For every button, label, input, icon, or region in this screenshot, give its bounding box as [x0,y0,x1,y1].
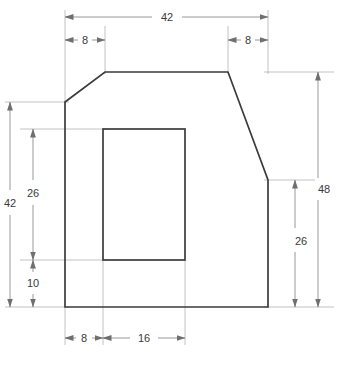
dim-label-top-right-chamfer: 8 [245,34,251,46]
dim-label-left-upper: 26 [27,187,39,199]
cutout-rectangle [103,129,185,260]
dim-label-bottom-offset: 8 [81,332,87,344]
dim-label-right-overall-height: 48 [318,183,330,195]
technical-drawing-canvas: 42 8 8 42 26 10 48 26 8 16 [0,0,339,371]
dim-label-left-overall-height: 42 [4,197,16,209]
dim-label-top-left-chamfer: 8 [82,34,88,46]
dim-label-cutout-width: 16 [138,332,150,344]
drawing-svg: 42 8 8 42 26 10 48 26 8 16 [0,0,339,371]
dimension-lines [10,17,318,338]
dim-label-left-lower: 10 [27,277,39,289]
dim-label-overall-width: 42 [161,11,173,23]
extension-lines [5,10,334,345]
part-outline [65,72,268,307]
dim-label-right-lower: 26 [295,235,307,247]
